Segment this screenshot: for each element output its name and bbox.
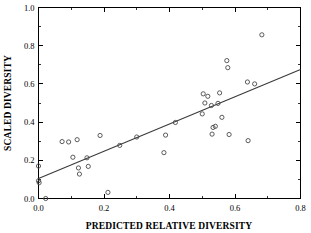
x-axis-title: PREDICTED RELATIVE DIVERSITY — [86, 221, 253, 231]
y-tick-label: 0.4 — [24, 117, 35, 127]
x-tick-label: 0.0 — [33, 203, 44, 213]
y-axis-title: SCALED DIVERSITY — [3, 55, 13, 151]
data-point — [77, 172, 81, 176]
regression-line — [39, 70, 301, 179]
data-point — [86, 164, 90, 168]
data-point — [76, 166, 80, 170]
data-point — [203, 101, 207, 105]
data-point — [225, 59, 229, 63]
y-tick-label: 0.6 — [24, 79, 35, 89]
data-point — [218, 91, 222, 95]
data-point — [210, 132, 214, 136]
data-point — [245, 80, 249, 84]
data-point — [71, 155, 75, 159]
y-axis-tick-labels: 0.00.20.40.60.81.0 — [24, 3, 35, 204]
x-tick-label: 0.8 — [295, 203, 306, 213]
y-tick-label: 0.8 — [24, 41, 35, 51]
y-tick-label: 1.0 — [24, 3, 35, 13]
data-point — [246, 139, 250, 143]
y-tick-label: 0.2 — [24, 155, 35, 165]
data-point — [220, 115, 224, 119]
x-tick-label: 0.6 — [230, 203, 241, 213]
data-point — [260, 33, 264, 37]
data-point — [162, 151, 166, 155]
data-point — [163, 133, 167, 137]
chart-canvas: 0.00.20.40.60.8 0.00.20.40.60.81.0 PREDI… — [0, 0, 311, 233]
data-point — [200, 112, 204, 116]
data-point — [206, 94, 210, 98]
data-point — [106, 190, 110, 194]
data-point — [201, 92, 205, 96]
x-axis-tick-labels: 0.00.20.40.60.8 — [33, 203, 306, 213]
y-tick-label: 0.0 — [24, 194, 35, 204]
scatter-plot-figure: 0.00.20.40.60.8 0.00.20.40.60.81.0 PREDI… — [0, 0, 311, 233]
data-point — [227, 132, 231, 136]
data-point — [253, 82, 257, 86]
regression-fit-line — [39, 70, 301, 179]
x-tick-label: 0.2 — [99, 203, 110, 213]
data-point — [226, 66, 230, 70]
data-point — [60, 139, 64, 143]
data-points-layer — [36, 33, 264, 201]
data-point — [75, 138, 79, 142]
x-tick-label: 0.4 — [164, 203, 175, 213]
data-point — [98, 133, 102, 137]
data-point — [67, 140, 71, 144]
